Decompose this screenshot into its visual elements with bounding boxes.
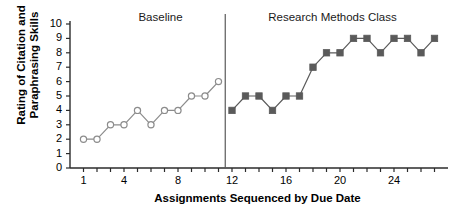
data-point[interactable] <box>404 35 410 41</box>
x-axis-title: Assignments Sequenced by Due Date <box>60 192 455 204</box>
x-tick-label: 16 <box>271 174 301 186</box>
data-point[interactable] <box>337 50 343 56</box>
data-point[interactable] <box>364 35 370 41</box>
y-tick-label: 4 <box>40 103 62 115</box>
y-tick-label: 9 <box>40 31 62 43</box>
x-tick-label: 1 <box>69 174 99 186</box>
data-point[interactable] <box>350 35 356 41</box>
data-point[interactable] <box>256 93 262 99</box>
y-tick-label: 6 <box>40 75 62 87</box>
phase-label-baseline: Baseline <box>103 11 218 23</box>
data-point[interactable] <box>391 35 397 41</box>
data-point[interactable] <box>175 107 181 113</box>
data-point[interactable] <box>107 122 113 128</box>
data-point[interactable] <box>242 93 248 99</box>
y-tick-label: 8 <box>40 46 62 58</box>
data-point[interactable] <box>188 93 194 99</box>
y-tick-label: 3 <box>40 118 62 130</box>
x-tick-label: 20 <box>325 174 355 186</box>
data-point[interactable] <box>296 93 302 99</box>
x-tick-label: 24 <box>379 174 409 186</box>
data-point[interactable] <box>418 50 424 56</box>
data-point[interactable] <box>377 50 383 56</box>
x-tick-label: 4 <box>109 174 139 186</box>
data-point[interactable] <box>283 93 289 99</box>
data-point[interactable] <box>215 79 221 85</box>
data-point[interactable] <box>431 35 437 41</box>
phase-label-intervention: Research Methods Class <box>245 11 420 23</box>
data-point[interactable] <box>202 93 208 99</box>
data-point[interactable] <box>229 107 235 113</box>
x-tick-label: 8 <box>163 174 193 186</box>
data-point[interactable] <box>94 136 100 142</box>
data-point[interactable] <box>310 64 316 70</box>
y-axis-title: Rating of Citation and Paraphrasing Skil… <box>15 0 41 140</box>
x-tick-label: 12 <box>217 174 247 186</box>
y-axis-title-line1: Rating of Citation and <box>15 5 27 124</box>
y-tick-label: 7 <box>40 60 62 72</box>
data-point[interactable] <box>134 107 140 113</box>
data-point[interactable] <box>269 107 275 113</box>
y-tick-label: 1 <box>40 147 62 159</box>
y-tick-label: 5 <box>40 89 62 101</box>
data-point[interactable] <box>121 122 127 128</box>
data-point[interactable] <box>323 50 329 56</box>
data-point[interactable] <box>80 136 86 142</box>
data-point[interactable] <box>161 107 167 113</box>
y-tick-label: 2 <box>40 132 62 144</box>
y-axis-title-line2: Paraphrasing Skills <box>28 12 40 119</box>
y-tick-label: 10 <box>40 17 62 29</box>
single-case-design-chart: Baseline Research Methods Class Rating o… <box>0 0 465 218</box>
y-tick-label: 0 <box>40 161 62 173</box>
data-point[interactable] <box>148 122 154 128</box>
series-line-0 <box>84 82 219 140</box>
